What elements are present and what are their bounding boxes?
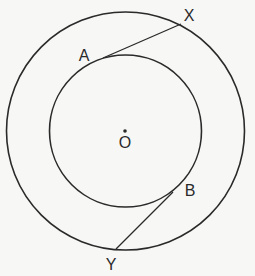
center-point-dot <box>123 129 127 133</box>
segment-by <box>116 192 173 249</box>
segment-ax <box>103 24 181 58</box>
geometry-diagram: O A X B Y <box>0 0 255 276</box>
label-point-y: Y <box>106 256 117 273</box>
label-point-a: A <box>79 47 90 64</box>
label-point-x: X <box>184 7 195 24</box>
label-point-b: B <box>185 182 196 199</box>
label-center-o: O <box>119 134 131 151</box>
